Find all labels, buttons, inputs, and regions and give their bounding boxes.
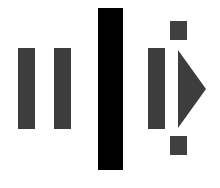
play-triangle-icon: [0, 0, 220, 188]
play-triangle-shape: [178, 50, 206, 128]
